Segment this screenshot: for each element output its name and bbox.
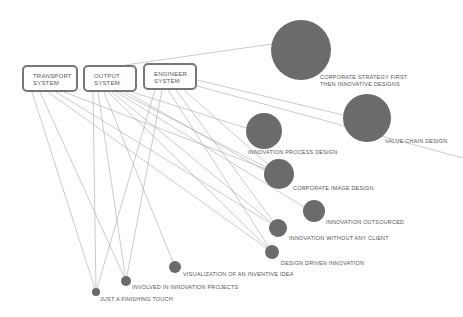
output-system-box[interactable]: OUTPUT SYSTEM bbox=[83, 65, 137, 92]
label-corporate-image: CORPORATE IMAGE DESIGN bbox=[293, 185, 374, 192]
transport-system-box[interactable]: TRANSPORT SYSTEM bbox=[22, 65, 78, 92]
label-corporate-strategy: CORPORATE STRATEGY FIRST THEN INNOVATIVE… bbox=[320, 74, 407, 88]
node-finishing-touch[interactable] bbox=[92, 288, 100, 296]
label-involved: INVOLVED IN INNOVATION PROJECTS bbox=[132, 284, 238, 291]
label-design-driven: DESIGN DRIVEN INNOVATION bbox=[281, 260, 364, 267]
label-finishing-touch: JUST A FINISHING TOUCH bbox=[100, 296, 173, 303]
node-innovation-process[interactable] bbox=[246, 113, 282, 149]
output-line1: OUTPUT bbox=[94, 73, 135, 80]
label-innovation-outsourced: INNOVATION OUTSOURCED bbox=[326, 219, 404, 226]
node-corporate-strategy[interactable] bbox=[271, 20, 331, 80]
node-involved[interactable] bbox=[121, 276, 131, 286]
engineer-system-box[interactable]: ENGINEER SYSTEM bbox=[143, 63, 197, 90]
label-visualization: VISUALIZATION OF AN INVENTIVE IDEA bbox=[183, 271, 294, 278]
label-innovation-without-client: INNOVATION WITHOUT ANY CLIENT bbox=[289, 235, 389, 242]
node-innovation-outsourced[interactable] bbox=[303, 200, 325, 222]
node-value-chain[interactable] bbox=[343, 94, 391, 142]
node-visualization[interactable] bbox=[169, 261, 181, 273]
node-corporate-image[interactable] bbox=[264, 159, 294, 189]
label-value-chain: VALUE CHAIN DESIGN bbox=[385, 138, 447, 145]
output-line2: SYSTEM bbox=[94, 80, 135, 87]
transport-line2: SYSTEM bbox=[33, 80, 76, 87]
engineer-line2: SYSTEM bbox=[154, 78, 195, 85]
engineer-line1: ENGINEER bbox=[154, 71, 195, 78]
node-innovation-without-client[interactable] bbox=[269, 219, 287, 237]
node-design-driven[interactable] bbox=[265, 245, 279, 259]
nodes bbox=[92, 20, 391, 296]
label-innovation-process: INNOVATION PROCESS DESIGN bbox=[248, 149, 337, 156]
transport-line1: TRANSPORT bbox=[33, 73, 76, 80]
network-diagram bbox=[0, 0, 463, 317]
